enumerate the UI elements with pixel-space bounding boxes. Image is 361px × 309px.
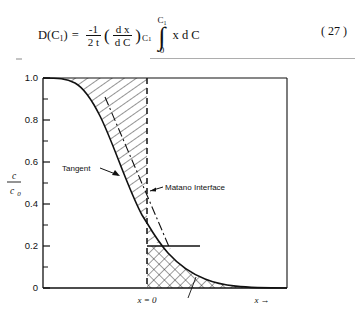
equation-block: D(C1) = -1 2 t ( d x d C ) C1 C1 ∫ 0 x d… [0,0,361,62]
equation-lhs-arg: C [51,28,59,42]
integral-sign: ∫ [158,28,165,46]
integral-lower-limit: 0 [160,46,165,55]
y-tick-label-6: 0 [33,282,38,293]
y-axis-label-denominator-sub: 0 [17,190,21,198]
x-origin-label: x = 0 [136,295,157,305]
equation-lhs: D(C1) [38,28,68,43]
equation-paren-open: ( [104,30,110,42]
y-tick-label-5: 0.2 [25,240,38,251]
origin-label-group: x = 0 [136,295,157,305]
matano-interface-label: Matano Interface [165,183,226,192]
annotation-matano-interface: Matano Interface [150,183,226,192]
scan-artifact-rule [150,58,355,59]
equation-eval-sub-index: 1 [148,35,152,43]
equation-fraction-two: d x d C [113,24,133,48]
concentration-profile-chart: 1.0 0.8 0.6 0.4 0.2 0 c c 0 Matano Inter… [0,62,361,309]
y-axis-label-denominator: c [10,186,15,196]
equation-equals: = [72,28,79,43]
diagonal-hatch-area [43,78,147,288]
matano-leader-arrow-icon [150,188,156,192]
x-axis-label: x → [253,295,269,305]
equation-fraction-one: -1 2 t [86,24,101,48]
equation-evaluation-subscript: C1 [142,28,152,43]
equation-fraction-one-denominator: 2 t [86,37,101,48]
y-axis-label: c c 0 [7,171,21,198]
equation-fraction-two-numerator: d x [114,24,132,34]
equation-paren-close: ) [135,30,141,42]
annotation-tangent: Tangent [62,164,120,176]
figure-matano-analysis: 1.0 0.8 0.6 0.4 0.2 0 c c 0 Matano Inter… [0,62,361,309]
y-tick-label-1: 1.0 [25,72,38,83]
equation-integral: C1 ∫ 0 [158,16,167,55]
y-axis-minor-ticks [43,99,48,267]
tangent-label: Tangent [62,164,91,173]
y-tick-label-4: 0.4 [25,198,38,209]
equation-number: ( 27 ) [321,24,347,39]
scan-artifact-dot [16,58,22,60]
equation-lhs-symbol: D [38,28,47,42]
y-tick-label-3: 0.6 [25,156,38,167]
y-axis-label-numerator: c [12,171,17,181]
equation-lhs-paren-close: ) [64,28,68,42]
equation-expression: D(C1) = -1 2 t ( d x d C ) C1 C1 ∫ 0 x d… [38,16,204,55]
equation-fraction-two-denominator: d C [113,37,133,48]
equation-fraction-one-numerator: -1 [87,24,100,34]
y-tick-label-2: 0.8 [25,114,38,125]
diagonal-hatch-area-lower [147,215,262,243]
equation-integrand: x d C [173,28,200,43]
